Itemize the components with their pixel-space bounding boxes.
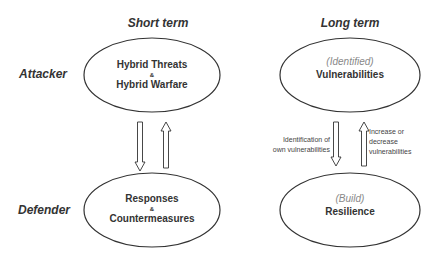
node-hybrid-threats: Hybrid Threats & Hybrid Warfare xyxy=(116,59,187,92)
edge-label-identification: Identification of own vulnerabilities xyxy=(268,135,330,155)
ampersand: & xyxy=(109,205,194,213)
node-line: Responses xyxy=(109,193,194,206)
node-qualifier: (Build) xyxy=(325,193,374,206)
node-label: Vulnerabilities xyxy=(316,68,384,81)
edge-label-line: Identification of xyxy=(268,135,330,145)
node-vulnerabilities: (Identified) Vulnerabilities xyxy=(316,56,384,81)
ampersand: & xyxy=(116,71,187,79)
node-resilience: (Build) Resilience xyxy=(325,193,374,218)
node-line: Countermeasures xyxy=(109,213,194,226)
arrow-up-left-icon xyxy=(161,122,171,168)
row-label-attacker: Attacker xyxy=(19,67,67,81)
arrow-up-right-icon xyxy=(359,122,369,166)
node-line: Hybrid Threats xyxy=(116,59,187,72)
arrow-down-left-icon xyxy=(135,122,145,171)
edge-label-line: Increase or xyxy=(369,127,411,137)
arrow-down-right-icon xyxy=(331,122,341,166)
column-header-long-term: Long term xyxy=(321,16,380,30)
edge-label-line: own vulnerabilities xyxy=(268,145,330,155)
node-line: Hybrid Warfare xyxy=(116,79,187,92)
node-label: Resilience xyxy=(325,205,374,218)
node-responses: Responses & Countermeasures xyxy=(109,193,194,226)
edge-label-line: vulnerabilities xyxy=(369,147,411,157)
edge-label-line: decrease xyxy=(369,137,411,147)
row-label-defender: Defender xyxy=(18,203,70,217)
column-header-short-term: Short term xyxy=(128,16,189,30)
node-qualifier: (Identified) xyxy=(316,56,384,69)
edge-label-increase-decrease: Increase or decrease vulnerabilities xyxy=(369,127,411,157)
